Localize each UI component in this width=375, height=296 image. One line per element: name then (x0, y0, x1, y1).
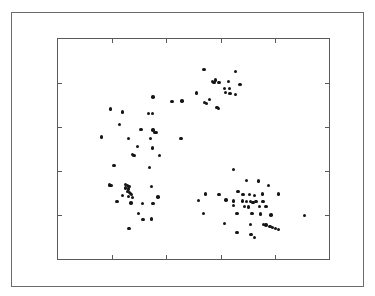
scatter-point (109, 107, 112, 110)
scatter-point (139, 128, 142, 131)
scatter-point (232, 204, 235, 207)
scatter-point (277, 192, 280, 195)
scatter-point (180, 99, 183, 102)
scatter-point (236, 190, 239, 193)
scatter-point (267, 184, 270, 187)
scatter-point (269, 213, 272, 216)
scatter-point (245, 179, 248, 182)
scatter-point (170, 100, 173, 103)
scatter-point (212, 81, 215, 84)
scatter-point (253, 236, 256, 239)
scatter-point (227, 80, 230, 83)
scatter-point (136, 145, 139, 148)
scatter-point (234, 70, 237, 73)
scatter-point (147, 112, 150, 115)
x-axis-tick-top (221, 39, 222, 43)
scatter-point (254, 200, 257, 203)
scatter-point (132, 154, 135, 157)
scatter-point (238, 83, 241, 86)
scatter-point (261, 200, 264, 203)
scatter-point (141, 218, 144, 221)
x-axis-tick-bottom (221, 255, 222, 259)
x-axis-tick-top (275, 39, 276, 43)
scatter-point (109, 184, 112, 187)
scatter-point (150, 217, 153, 220)
scatter-point (232, 168, 235, 171)
scatter-point (197, 199, 200, 202)
scatter-point (234, 93, 237, 96)
y-axis-tick-right (325, 83, 329, 84)
y-axis-tick-right (325, 127, 329, 128)
y-axis-tick-left (58, 171, 62, 172)
scatter-point (151, 95, 154, 98)
scatter-point (156, 195, 159, 198)
scatter-point (258, 205, 261, 208)
scatter-point (228, 92, 231, 95)
scatter-point (241, 193, 244, 196)
scatter-point (303, 214, 306, 217)
y-axis-tick-left (58, 83, 62, 84)
scatter-point (241, 199, 244, 202)
scatter-point (127, 195, 130, 198)
scatter-point (277, 228, 280, 231)
scatter-point (235, 231, 238, 234)
scatter-point (115, 200, 118, 203)
scatter-point (100, 135, 103, 138)
scatter-point (248, 193, 251, 196)
x-axis-tick-bottom (166, 255, 167, 259)
scatter-point (131, 196, 134, 199)
scatter-point (151, 146, 154, 149)
scatter-point (141, 202, 144, 205)
scatter-point (121, 110, 124, 113)
scatter-point (121, 194, 124, 197)
scatter-point (250, 212, 253, 215)
scatter-point (129, 201, 132, 204)
scatter-point (261, 192, 264, 195)
scatter-point (245, 200, 248, 203)
x-axis-tick-bottom (275, 255, 276, 259)
scatter-point (224, 91, 227, 94)
scatter-point (118, 123, 121, 126)
scatter-point (204, 192, 207, 195)
scatter-point (208, 98, 211, 101)
scatter-point (235, 212, 238, 215)
scatter-point (127, 227, 130, 230)
x-axis-tick-bottom (112, 255, 113, 259)
scatter-point (223, 87, 226, 90)
scatter-point (112, 164, 115, 167)
scatter-point (247, 205, 250, 208)
scatter-point (259, 212, 262, 215)
scatter-point (249, 223, 252, 226)
scatter-point (179, 137, 182, 140)
scatter-point (151, 112, 154, 115)
scatter-point (224, 198, 227, 201)
scatter-point (217, 81, 220, 84)
scatter-point (202, 68, 205, 71)
scatter-point (253, 194, 256, 197)
scatter-point (195, 91, 198, 94)
x-axis-tick-top (112, 39, 113, 43)
plot-frame-border (57, 38, 330, 260)
x-axis-tick-top (166, 39, 167, 43)
scatter-point (149, 137, 152, 140)
plot-data-area (58, 39, 329, 259)
y-axis-tick-right (325, 215, 329, 216)
scatter-point (217, 107, 220, 110)
scatter-point (264, 205, 267, 208)
scatter-point (243, 205, 246, 208)
scatter-point (217, 193, 220, 196)
scatter-point (232, 199, 235, 202)
scatter-point (257, 179, 260, 182)
y-axis-tick-right (325, 171, 329, 172)
scatter-point (155, 131, 158, 134)
scatter-point (150, 185, 153, 188)
scatter-point (151, 202, 154, 205)
scatter-plot-figure (0, 0, 375, 296)
y-axis-tick-left (58, 215, 62, 216)
scatter-point (158, 154, 161, 157)
scatter-point (202, 212, 205, 215)
scatter-point (223, 222, 226, 225)
scatter-point (137, 212, 140, 215)
scatter-point (205, 102, 208, 105)
scatter-point (228, 87, 231, 90)
